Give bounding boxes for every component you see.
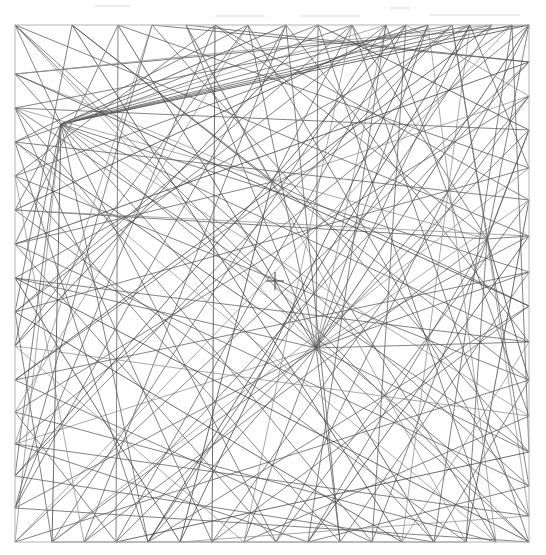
arrangement-line bbox=[180, 516, 529, 542]
arrangement-line bbox=[15, 25, 352, 312]
arrangement-line bbox=[15, 412, 496, 542]
arrangement-line bbox=[316, 25, 318, 348]
top-artifact-group bbox=[95, 6, 520, 16]
arrangement-line bbox=[15, 25, 529, 486]
arrangement-line bbox=[452, 25, 529, 486]
arrangement-line bbox=[316, 348, 340, 542]
arrangement-line bbox=[15, 108, 529, 130]
arrangement-line bbox=[402, 25, 470, 542]
arrangement-line bbox=[15, 25, 406, 210]
arrangement-line bbox=[15, 210, 529, 236]
arrangement-line bbox=[61, 124, 529, 516]
arrangement-line bbox=[15, 142, 529, 200]
center-crosshair-marker bbox=[266, 272, 284, 290]
arrangement-line bbox=[148, 25, 470, 542]
arrangement-line bbox=[186, 25, 466, 542]
arrangement-line bbox=[15, 74, 529, 306]
arrangement-line bbox=[308, 486, 529, 542]
arrangement-lines-group bbox=[15, 25, 529, 542]
arrangement-line bbox=[52, 124, 61, 542]
arrangement-line bbox=[487, 236, 529, 239]
line-arrangement-figure bbox=[0, 0, 546, 555]
arrangement-line bbox=[180, 182, 272, 542]
arrangement-line bbox=[61, 124, 148, 542]
arrangement-line bbox=[15, 62, 529, 244]
arrangement-line bbox=[61, 124, 529, 342]
arrangement-line bbox=[512, 25, 529, 452]
arrangement-line bbox=[286, 25, 529, 342]
arrangement-line bbox=[402, 342, 529, 542]
arrangement-line bbox=[15, 25, 512, 380]
arrangement-line bbox=[466, 200, 529, 542]
arrangement-line bbox=[15, 25, 512, 542]
arrangement-line bbox=[244, 416, 529, 542]
arrangement-line bbox=[316, 25, 470, 348]
arrangement-line bbox=[318, 25, 496, 542]
arrangement-line bbox=[61, 25, 512, 124]
arrangement-line bbox=[340, 272, 529, 542]
arrangement-line bbox=[470, 25, 529, 168]
arrangement-line bbox=[372, 130, 529, 542]
arrangement-line bbox=[15, 380, 529, 542]
arrangement-line bbox=[84, 62, 529, 542]
arrangement-line bbox=[316, 342, 529, 348]
arrangement-line bbox=[15, 74, 272, 182]
figure-canvas bbox=[0, 0, 546, 555]
arrangement-line bbox=[15, 412, 116, 542]
arrangement-line bbox=[52, 25, 386, 542]
arrangement-line bbox=[212, 306, 529, 542]
arrangement-line bbox=[72, 25, 402, 542]
arrangement-line bbox=[15, 108, 372, 542]
arrangement-line bbox=[15, 25, 452, 108]
